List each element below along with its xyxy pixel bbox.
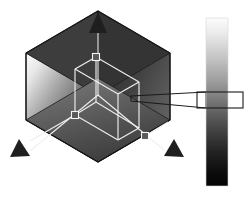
volume-widget-stage: 3D Volume Sub-Region Selector Z axis X a… [0,0,250,200]
axis-arrow-down-left-icon[interactable] [10,139,30,157]
axis-arrow-down-right-icon[interactable] [164,139,184,157]
selection-handle-top[interactable] [93,54,100,61]
colorbar-track[interactable] [206,18,228,186]
grayscale-transfer-function-bar[interactable] [197,18,243,186]
selection-handle-right[interactable] [142,133,149,140]
volume-scene-canvas[interactable] [0,0,250,200]
selection-handle-left[interactable] [72,112,79,119]
